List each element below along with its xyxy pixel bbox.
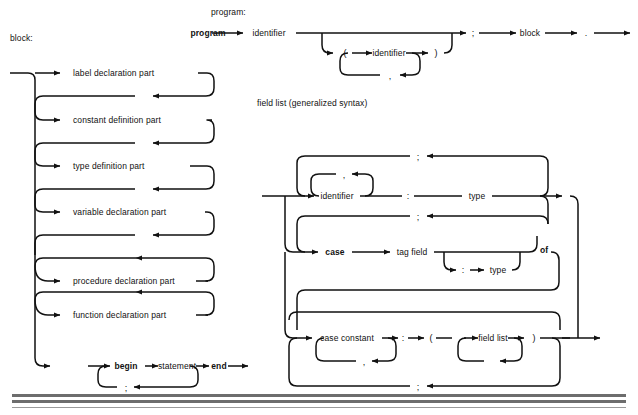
block-procedure-declaration-part: procedure declaration part [73,277,175,286]
program-param-comma: , [389,72,392,81]
block-end-keyword: end [211,362,226,371]
fieldlist-tag-colon: : [462,266,465,275]
block-begin-keyword: begin [114,362,137,371]
program-keyword: program [190,29,225,38]
fieldlist-tag-type: type [490,266,506,275]
fieldlist-case-keyword: case [325,248,344,257]
fieldlist-identifier-comma: , [343,171,346,180]
block-label-declaration-part: label declaration part [73,69,154,78]
fieldlist-nested-field-list: field list [478,334,507,343]
fieldlist-open-paren: ( [430,334,433,343]
block-variable-declaration-part: variable declaration part [73,208,166,217]
heading-block: block: [10,34,33,43]
fieldlist-identifier: identifier [320,192,353,201]
footer-rule-1 [12,394,626,397]
program-block: block [520,29,540,38]
fieldlist-colon: : [407,192,410,201]
fieldlist-of-keyword: of [540,246,548,255]
fieldlist-tag-field: tag field [397,248,428,257]
fieldlist-case-constant-comma: , [363,358,366,367]
syntax-diagram-page: block: program: field list (generalized … [0,0,638,415]
block-statement: statement [158,362,196,371]
block-type-definition-part: type definition part [73,162,144,171]
program-close-paren: ) [435,49,438,58]
footer-rule-2 [12,400,626,403]
fieldlist-case-colon: : [402,334,405,343]
block-function-declaration-part: function declaration part [73,311,166,320]
program-identifier: identifier [252,29,285,38]
fieldlist-case-constant: case constant [320,334,374,343]
block-constant-definition-part: constant definition part [73,116,161,125]
heading-program: program: [211,8,246,17]
fieldlist-semicolon-mid: ; [417,213,420,222]
heading-field-list: field list (generalized syntax) [257,99,367,108]
fieldlist-close-paren: ) [533,334,536,343]
program-period: . [585,29,588,38]
footer-rule-3 [12,407,626,408]
program-semicolon: ; [472,29,475,38]
fieldlist-semicolon-top: ; [417,153,420,162]
block-statement-separator: ; [125,384,128,393]
program-open-paren: ( [344,49,347,58]
fieldlist-type: type [469,192,485,201]
program-param-identifier: identifier [372,49,405,58]
fieldlist-semicolon-bottom: ; [417,383,420,392]
